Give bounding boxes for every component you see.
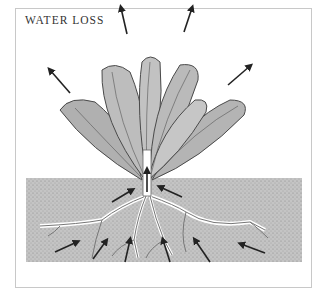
soil <box>26 178 302 262</box>
